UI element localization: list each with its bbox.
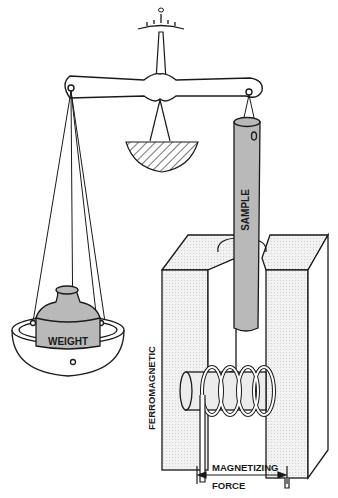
diagram-canvas: WEIGHT SAMPLE — [0, 0, 338, 498]
magnet-right-block — [262, 235, 328, 478]
magnetizing-label: MAGNETIZING — [212, 462, 279, 473]
magnetic-balance-diagram: WEIGHT SAMPLE — [0, 0, 338, 498]
magnet-left-block — [162, 235, 236, 470]
scale-dial — [138, 8, 184, 29]
weight-label: WEIGHT — [48, 336, 88, 347]
sample-label: SAMPLE — [240, 189, 251, 231]
balance-pointer — [156, 32, 166, 80]
fulcrum-support — [126, 100, 198, 172]
ferromagnetic-label: FERROMAGNETIC — [146, 346, 157, 430]
force-label: FORCE — [212, 480, 245, 491]
balance-beam — [65, 74, 262, 101]
